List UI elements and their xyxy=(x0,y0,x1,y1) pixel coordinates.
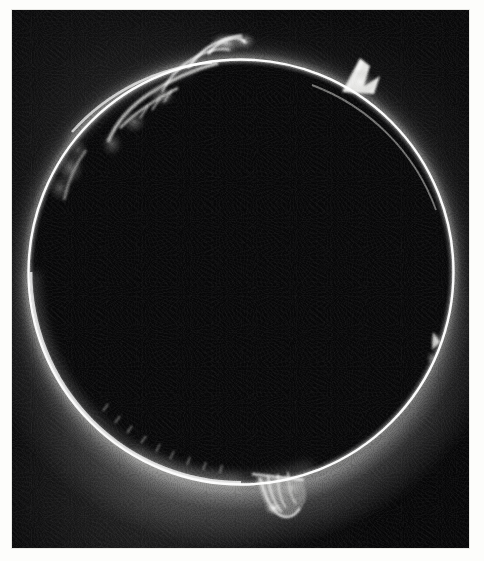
photographic-plate xyxy=(12,10,469,548)
page-frame xyxy=(0,0,484,561)
sky-canvas xyxy=(12,10,469,548)
